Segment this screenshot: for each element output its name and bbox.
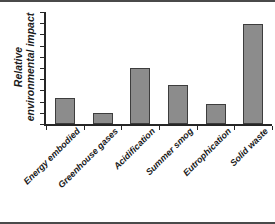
y-axis-tick — [40, 68, 45, 69]
x-axis-category-label-text: Solid waste — [228, 126, 270, 168]
y-axis-title-line-2: environmental impact — [24, 13, 36, 122]
bar — [55, 98, 75, 124]
y-axis-tick — [40, 79, 45, 80]
y-axis-tick — [40, 12, 45, 13]
y-axis-tick — [40, 90, 45, 91]
figure-top-border — [0, 0, 275, 2]
y-axis-title-text: Relative environmental impact — [12, 13, 36, 122]
chart-figure: Relative environmental impact Energy emb… — [0, 0, 275, 224]
bar-series — [46, 12, 272, 124]
figure-bottom-border — [0, 222, 275, 224]
plot-area — [44, 12, 272, 126]
y-axis-tick — [40, 46, 45, 47]
y-axis-tick — [40, 124, 45, 125]
y-axis-title: Relative environmental impact — [4, 8, 44, 126]
x-axis-category-labels: Energy embodiedGreenhouse gasesAcidifica… — [44, 126, 275, 222]
y-axis-tick — [40, 34, 45, 35]
y-axis-title-line-1: Relative — [12, 13, 24, 122]
y-axis-tick — [40, 113, 45, 114]
y-axis-tick — [40, 23, 45, 24]
y-axis-tick — [40, 57, 45, 58]
y-axis-tick — [40, 102, 45, 103]
